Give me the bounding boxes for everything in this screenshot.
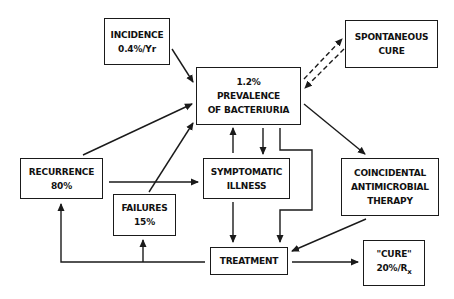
spontaneous-subtitle: CURE	[378, 44, 404, 58]
node-incidence: INCIDENCE 0.4%/Yr	[104, 18, 170, 65]
failures-percent: 15%	[134, 215, 155, 229]
arrow-spontaneous-to-prevalence	[305, 49, 344, 88]
node-spontaneous-cure: SPONTANEOUS CURE	[345, 20, 438, 68]
spontaneous-title: SPONTANEOUS	[355, 30, 429, 44]
arrow-incidence-to-prevalence	[172, 49, 193, 82]
node-failures: FAILURES 15%	[113, 194, 176, 236]
cure-rate-main: 20%/R	[376, 263, 407, 273]
treatment-title: TREATMENT	[220, 254, 279, 268]
symptomatic-title: SYMPTOMATIC	[211, 165, 282, 179]
prevalence-percent: 1.2%	[236, 75, 260, 89]
arrow-prevalence-to-spontaneous	[304, 39, 342, 79]
coincidental-line3: THERAPY	[367, 194, 412, 208]
cure-rate-subscript: x	[407, 268, 411, 276]
arrow-prevalence-to-coincidental	[304, 104, 365, 154]
node-prevalence: 1.2% PREVALENCE OF BACTERIURIA	[196, 67, 301, 125]
incidence-title: INCIDENCE	[111, 28, 164, 42]
symptomatic-subtitle: ILLNESS	[227, 179, 267, 193]
arrow-recurrence-to-prevalence	[83, 104, 192, 155]
cure-title: "CURE"	[376, 247, 411, 261]
recurrence-title: RECURRENCE	[29, 165, 94, 179]
cure-rate: 20%/Rx	[376, 261, 411, 279]
arrow-coincidental-to-treatment	[292, 219, 366, 251]
node-recurrence: RECURRENCE 80%	[20, 158, 103, 199]
prevalence-title: PREVALENCE	[217, 89, 280, 103]
prevalence-subtitle: OF BACTERIURIA	[208, 103, 290, 117]
incidence-rate: 0.4%/Yr	[118, 42, 156, 56]
node-symptomatic-illness: SYMPTOMATIC ILLNESS	[203, 158, 290, 199]
node-treatment: TREATMENT	[210, 247, 288, 275]
node-cure: "CURE" 20%/Rx	[363, 240, 425, 286]
failures-title: FAILURES	[121, 201, 167, 215]
coincidental-line2: ANTIMICROBIAL	[351, 180, 429, 194]
coincidental-line1: COINCIDENTAL	[354, 166, 426, 180]
node-coincidental-therapy: COINCIDENTAL ANTIMICROBIAL THERAPY	[341, 158, 439, 216]
recurrence-percent: 80%	[51, 179, 72, 193]
